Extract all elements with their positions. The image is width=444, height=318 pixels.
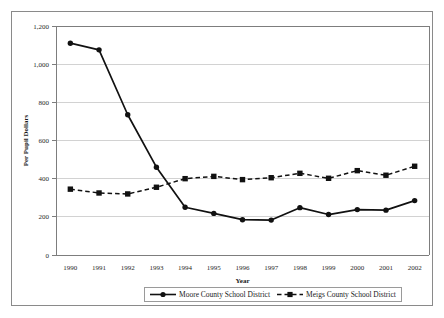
data-point-0-3 bbox=[154, 165, 159, 170]
data-point-0-11 bbox=[383, 207, 388, 212]
line-chart: 1,2001,000800600400200019901991199219931… bbox=[12, 12, 434, 307]
xtick-label-1998: 1998 bbox=[293, 264, 308, 272]
ytick-label-600: 600 bbox=[39, 137, 50, 145]
legend-label-moore: Moore County School District bbox=[179, 290, 270, 299]
xtick-label-1996: 1996 bbox=[236, 264, 251, 272]
data-point-0-8 bbox=[297, 205, 302, 210]
xtick-label-2002: 2002 bbox=[408, 264, 423, 272]
xtick-label-1994: 1994 bbox=[178, 264, 193, 272]
plot-area-wrapper: 1,2001,000800600400200019901991199219931… bbox=[12, 12, 434, 307]
legend-label-meigs: Meigs County School District bbox=[306, 290, 396, 299]
ytick-label-1000: 1,000 bbox=[33, 61, 49, 69]
data-point-0-0 bbox=[68, 40, 73, 45]
xtick-label-1990: 1990 bbox=[63, 264, 78, 272]
data-point-1-7 bbox=[268, 175, 273, 180]
data-point-0-1 bbox=[96, 47, 101, 52]
data-point-0-12 bbox=[412, 198, 417, 203]
data-point-1-1 bbox=[96, 190, 101, 195]
data-point-1-10 bbox=[355, 168, 360, 173]
xtick-label-1991: 1991 bbox=[92, 264, 107, 272]
data-point-0-4 bbox=[182, 205, 187, 210]
legend-entry-moore: Moore County School District bbox=[150, 290, 270, 299]
data-point-0-5 bbox=[211, 211, 216, 216]
data-point-1-11 bbox=[383, 173, 388, 178]
data-point-1-6 bbox=[240, 177, 245, 182]
data-point-1-4 bbox=[182, 176, 187, 181]
ytick-label-1200: 1,200 bbox=[33, 23, 49, 31]
data-point-1-5 bbox=[211, 174, 216, 179]
data-point-1-2 bbox=[125, 191, 130, 196]
ytick-label-400: 400 bbox=[39, 175, 50, 183]
data-point-0-9 bbox=[326, 212, 331, 217]
data-point-0-2 bbox=[125, 112, 130, 117]
data-point-1-3 bbox=[154, 185, 159, 190]
xtick-label-1993: 1993 bbox=[149, 264, 164, 272]
y-axis-title: Per Pupil Dollars bbox=[22, 114, 30, 166]
data-point-1-12 bbox=[412, 164, 417, 169]
ytick-label-200: 200 bbox=[39, 213, 50, 221]
series-line-0 bbox=[70, 43, 414, 220]
data-point-0-10 bbox=[355, 207, 360, 212]
x-axis-title: Year bbox=[236, 277, 250, 285]
legend-swatch-moore-icon bbox=[150, 290, 176, 299]
xtick-label-1995: 1995 bbox=[207, 264, 222, 272]
xtick-label-1999: 1999 bbox=[322, 264, 337, 272]
legend-entry-meigs: Meigs County School District bbox=[277, 290, 396, 299]
data-point-0-6 bbox=[240, 217, 245, 222]
ytick-label-800: 800 bbox=[39, 99, 50, 107]
xtick-label-1992: 1992 bbox=[121, 264, 136, 272]
data-point-1-0 bbox=[68, 186, 73, 191]
xtick-label-1997: 1997 bbox=[264, 264, 279, 272]
xtick-label-2000: 2000 bbox=[350, 264, 365, 272]
ytick-label-0: 0 bbox=[46, 252, 50, 260]
legend-swatch-meigs-icon bbox=[277, 290, 303, 299]
chart-legend: Moore County School District Meigs Count… bbox=[144, 287, 402, 302]
data-point-1-8 bbox=[297, 171, 302, 176]
chart-figure: 1,2001,000800600400200019901991199219931… bbox=[11, 11, 433, 306]
xtick-label-2001: 2001 bbox=[379, 264, 394, 272]
data-point-0-7 bbox=[268, 217, 273, 222]
data-point-1-9 bbox=[326, 176, 331, 181]
